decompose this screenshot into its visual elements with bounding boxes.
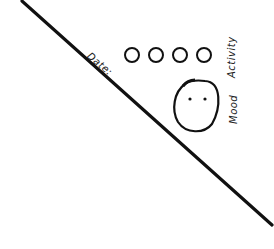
- activity-circle-1[interactable]: [124, 47, 140, 63]
- right-eye-icon: [203, 97, 206, 100]
- activity-circle-2[interactable]: [148, 47, 164, 63]
- activity-label: Activity: [226, 36, 237, 78]
- face-icon[interactable]: [174, 80, 218, 131]
- activity-circle-4[interactable]: [196, 47, 212, 63]
- mood-label: Mood: [228, 95, 239, 124]
- left-eye-icon: [188, 97, 191, 100]
- activity-circle-3[interactable]: [172, 47, 188, 63]
